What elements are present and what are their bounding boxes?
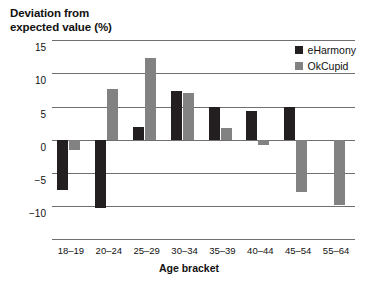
bar-eharmony: [57, 140, 68, 190]
y-tick-label: 0: [16, 142, 46, 153]
x-tick-label: 25–29: [129, 245, 165, 256]
y-tick-label: 5: [16, 109, 46, 120]
bar-okcupid: [258, 140, 269, 145]
legend-item-eharmony: eHarmony: [295, 42, 356, 57]
y-tick-label: −10: [16, 208, 46, 219]
bar-group: [166, 40, 204, 223]
bar-eharmony: [209, 107, 220, 140]
x-tick-label: 18–19: [53, 245, 89, 256]
bar-eharmony: [246, 111, 257, 140]
bar-okcupid: [296, 140, 307, 192]
x-tick-label: 55–64: [318, 245, 354, 256]
bar-okcupid: [221, 128, 232, 140]
bar-okcupid: [145, 58, 156, 140]
x-axis-line: [52, 239, 355, 240]
bar-group: [204, 40, 242, 223]
x-tick-label: 40–44: [242, 245, 278, 256]
legend-swatch-icon: [295, 46, 303, 54]
bar-eharmony: [284, 107, 295, 140]
chart-title: Deviation from expected value (%): [10, 7, 210, 34]
bar-group: [90, 40, 128, 223]
bar-okcupid: [107, 89, 118, 140]
bar-group: [241, 40, 279, 223]
bar-group: [128, 40, 166, 223]
legend-swatch-icon: [295, 62, 303, 70]
legend-label: OkCupid: [308, 60, 349, 72]
chart-legend: eHarmonyOkCupid: [295, 42, 356, 74]
legend-item-okcupid: OkCupid: [295, 58, 356, 73]
y-tick-label: −5: [16, 175, 46, 186]
x-axis-title: Age bracket: [0, 262, 378, 274]
bar-okcupid: [183, 93, 194, 140]
bar-eharmony: [133, 127, 144, 140]
bar-okcupid: [334, 140, 345, 205]
bar-eharmony: [171, 91, 182, 140]
x-tick-label: 30–34: [167, 245, 203, 256]
legend-label: eHarmony: [308, 44, 356, 56]
x-tick-label: 35–39: [204, 245, 240, 256]
x-tick-label: 45–54: [280, 245, 316, 256]
bar-eharmony: [95, 140, 106, 208]
bar-group: [52, 40, 90, 223]
y-tick-label: 10: [16, 75, 46, 86]
x-tick-label: 20–24: [91, 245, 127, 256]
y-tick-label: 15: [16, 42, 46, 53]
bar-okcupid: [69, 140, 80, 151]
deviation-bar-chart: Deviation from expected value (%) 151050…: [0, 0, 378, 297]
